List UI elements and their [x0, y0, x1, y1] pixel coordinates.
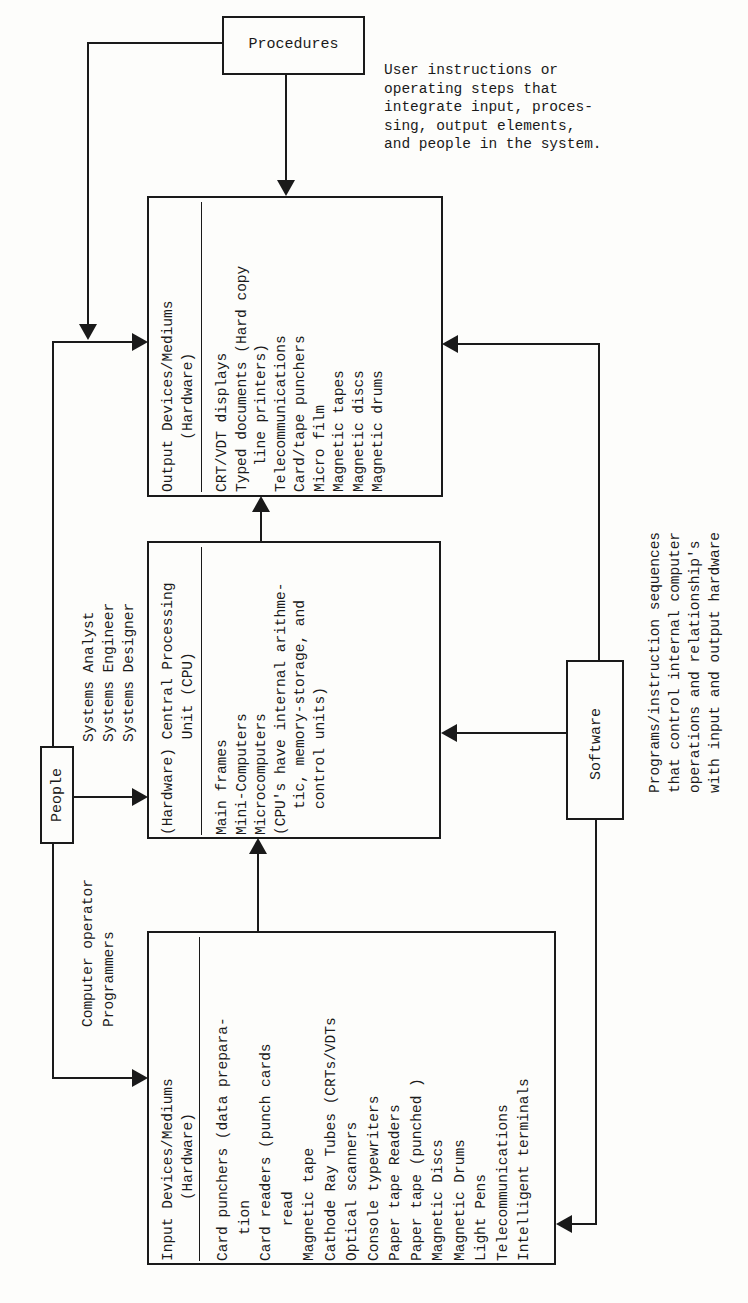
- connector-people-cpu: [73, 796, 133, 798]
- software-label: Software: [587, 708, 607, 780]
- connector-procedures-down: [87, 42, 89, 327]
- cpu-items: Main frames Mini-Computers Microcomputer…: [213, 583, 330, 835]
- connector-procedures-output: [285, 74, 287, 184]
- procedures-box: Procedures: [222, 16, 365, 75]
- connector-software-input: [570, 1223, 597, 1225]
- output-title: Output Devices/Mediums (Hardware): [158, 301, 198, 492]
- arrow-right-icon: [132, 1069, 148, 1087]
- connector-people-input: [52, 1077, 132, 1079]
- arrow-up-icon: [249, 838, 267, 854]
- output-items: CRT/VDT displays Typed documents (Hard c…: [213, 266, 389, 492]
- input-devices-box: Input Devices/Mediums (Hardware) Card pu…: [147, 931, 556, 1265]
- cpu-box: (Hardware) Central Processing Unit (CPU)…: [147, 541, 441, 839]
- cpu-divider: [201, 547, 202, 835]
- arrow-right-icon: [132, 333, 148, 351]
- cpu-title: (Hardware) Central Processing Unit (CPU): [158, 583, 198, 835]
- output-devices-box: Output Devices/Mediums (Hardware) CRT/VD…: [147, 196, 443, 497]
- connector-software-output: [456, 343, 599, 345]
- arrow-right-icon: [132, 788, 148, 806]
- input-divider: [199, 937, 200, 1261]
- connector-people-output: [52, 341, 132, 343]
- input-title: Input Devices/Mediums (Hardware): [158, 1078, 198, 1261]
- arrow-down-icon: [79, 324, 97, 340]
- software-box: Software: [566, 660, 624, 820]
- connector-software-cpu: [455, 732, 567, 734]
- connector-people-spine-down: [52, 843, 54, 1078]
- connector-procedures-left: [87, 42, 223, 44]
- procedures-description: User instructions or operating steps tha…: [384, 61, 602, 154]
- people-upper-roles: Systems Analyst Systems Engineer Systems…: [79, 603, 139, 742]
- people-box: People: [40, 746, 74, 844]
- arrow-down-icon: [277, 180, 295, 196]
- connector-cpu-output: [260, 508, 262, 542]
- connector-software-down: [595, 819, 597, 1224]
- people-lower-roles: Computer operator Programmers: [78, 879, 120, 1027]
- arrow-left-icon: [556, 1215, 572, 1233]
- input-items: Card punchers (data prepara- tion Card r…: [213, 1017, 536, 1261]
- connector-software-up: [598, 343, 600, 661]
- arrow-left-icon: [441, 724, 457, 742]
- arrow-up-icon: [252, 496, 270, 512]
- people-label: People: [48, 768, 68, 822]
- connector-input-cpu: [257, 852, 259, 932]
- output-divider: [201, 202, 202, 492]
- arrow-left-icon: [442, 335, 458, 353]
- connector-people-spine-up: [52, 341, 54, 747]
- software-description: Programs/instruction sequences that cont…: [645, 532, 725, 793]
- procedures-label: Procedures: [224, 36, 363, 53]
